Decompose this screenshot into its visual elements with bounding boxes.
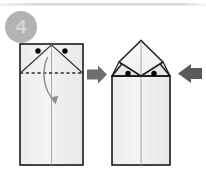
- left-reference-dot-1: [35, 48, 40, 53]
- diagram-canvas: 4: [0, 0, 206, 172]
- transition-arrow-group: [87, 66, 107, 84]
- right-reference-dot-1: [125, 71, 130, 76]
- left-figure-group: [20, 44, 83, 165]
- right-arrow-icon: [87, 66, 107, 84]
- right-figure-group: [112, 41, 170, 166]
- right-reference-dot-2: [151, 71, 156, 76]
- left-reference-dot-2: [62, 48, 67, 53]
- left-arrow-icon: [178, 64, 202, 83]
- origami-step-illustration: [0, 0, 206, 172]
- push-arrow-group: [178, 64, 202, 83]
